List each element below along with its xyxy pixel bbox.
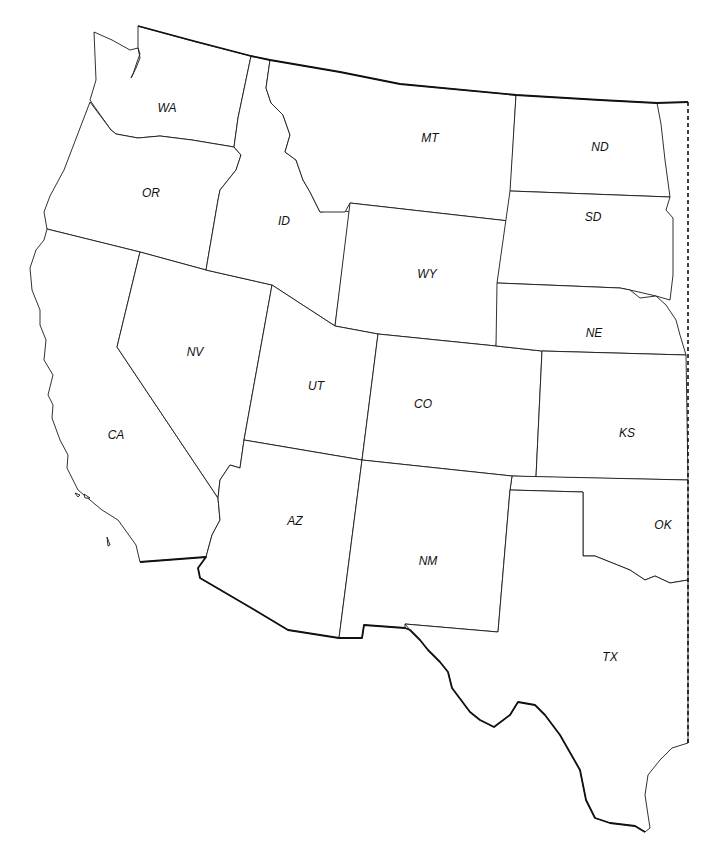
island	[75, 493, 80, 497]
western-us-map	[0, 0, 715, 854]
state-label-ca: CA	[108, 428, 125, 442]
state-label-nv: NV	[187, 345, 204, 359]
state-label-ks: KS	[619, 426, 635, 440]
state-label-sd: SD	[585, 210, 602, 224]
state-label-nd: ND	[591, 140, 608, 154]
state-label-ut: UT	[308, 379, 324, 393]
state-label-or: OR	[142, 186, 160, 200]
state-wa[interactable]	[90, 26, 251, 147]
state-label-nm: NM	[419, 554, 438, 568]
state-label-wy: WY	[417, 267, 436, 281]
state-ks[interactable]	[536, 351, 688, 480]
state-co[interactable]	[362, 334, 542, 477]
state-label-ok: OK	[654, 518, 671, 532]
state-label-id: ID	[278, 214, 290, 228]
state-label-az: AZ	[287, 514, 302, 528]
state-label-ne: NE	[586, 326, 603, 340]
state-label-wa: WA	[157, 101, 176, 115]
state-label-mt: MT	[421, 131, 438, 145]
state-nm[interactable]	[339, 460, 512, 638]
island	[107, 537, 110, 546]
state-label-co: CO	[414, 397, 432, 411]
state-label-tx: TX	[602, 650, 617, 664]
state-nd[interactable]	[510, 95, 670, 197]
